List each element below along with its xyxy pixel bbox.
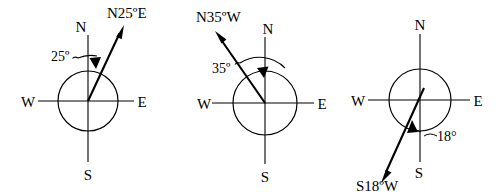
north-label: N	[415, 17, 426, 33]
west-label: W	[351, 93, 366, 109]
angle-arc-arrowhead	[90, 57, 102, 69]
south-label: S	[415, 165, 423, 181]
compass-n25e: 25º N S E W N25ºE	[21, 5, 147, 183]
compass-n35w: 35º N S E W N35ºW	[196, 9, 327, 185]
east-label: E	[317, 96, 326, 112]
angle-arc-leader	[73, 57, 79, 58]
angle-arc	[240, 57, 285, 68]
bearing-ray	[386, 88, 424, 172]
south-label: S	[84, 167, 92, 183]
bearing-label: N35ºW	[196, 9, 241, 25]
bearing-label: N25ºE	[107, 5, 147, 21]
compass-diagrams-canvas: 25º N S E W N25ºE 35º N S E W N35ºW	[0, 0, 503, 194]
angle-label: 25º	[51, 49, 70, 64]
angle-label: 18°	[437, 129, 457, 144]
east-label: E	[137, 94, 146, 110]
bearing-ray-arrowhead	[116, 25, 124, 39]
north-label: N	[76, 19, 87, 35]
angle-label-leader	[424, 134, 437, 136]
bearing-label: S18ºW	[356, 178, 399, 194]
north-label: N	[263, 21, 274, 37]
compass-bearings-figure: 25º N S E W N25ºE 35º N S E W N35ºW	[0, 0, 503, 194]
compass-s18w: 18° N S E W S18ºW	[351, 17, 483, 194]
angle-label: 35º	[212, 61, 231, 76]
west-label: W	[21, 94, 36, 110]
east-label: E	[473, 93, 482, 109]
bearing-ray-arrowhead	[215, 31, 227, 44]
angle-arc-arrowhead	[257, 67, 269, 79]
south-label: S	[261, 169, 269, 185]
west-label: W	[197, 96, 212, 112]
bearing-ray	[88, 34, 120, 102]
